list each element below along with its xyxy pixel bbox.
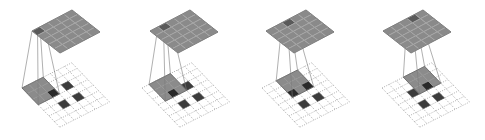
output-grid [150, 10, 218, 53]
input-cell [61, 81, 73, 90]
kernel [149, 74, 187, 102]
kernel [403, 66, 441, 94]
panel-step-4 [382, 10, 470, 127]
input-cell [192, 92, 205, 101]
input-cell [58, 100, 71, 109]
panel-step-1 [22, 10, 110, 127]
output-grid [32, 10, 100, 53]
padded-input-grid [142, 63, 230, 127]
kernel [276, 70, 314, 98]
input-cell [178, 100, 191, 109]
input-cell [298, 100, 311, 109]
output-grid [383, 10, 451, 53]
panel-step-3 [262, 10, 350, 127]
transposed-convolution-diagram [0, 0, 485, 140]
input-cell [312, 92, 325, 101]
diagram-canvas [0, 0, 485, 140]
input-cell [418, 100, 431, 109]
input-cell [72, 92, 85, 101]
input-cell [432, 92, 445, 101]
projection-line [22, 31, 32, 88]
kernel [22, 77, 60, 105]
padded-input-grid [262, 63, 350, 127]
panel-step-2 [142, 10, 230, 127]
output-grid [266, 10, 334, 53]
